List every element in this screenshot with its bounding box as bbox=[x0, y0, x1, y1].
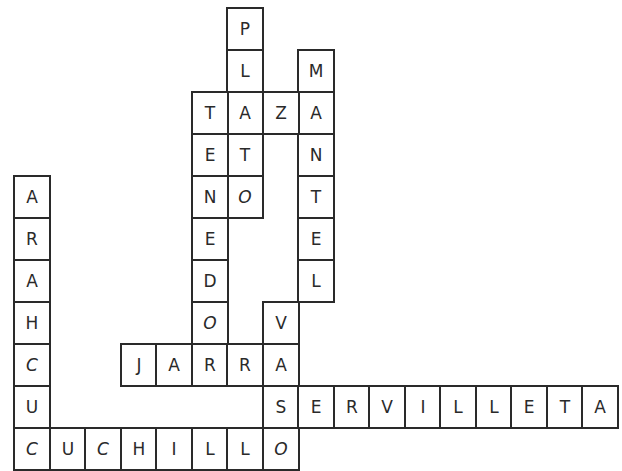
cell-letter: U bbox=[62, 439, 74, 459]
crossword-cell[interactable]: E bbox=[510, 385, 548, 429]
crossword-cell[interactable]: A bbox=[13, 175, 51, 219]
crossword-cell[interactable]: V bbox=[262, 301, 300, 345]
crossword-cell[interactable]: R bbox=[226, 343, 264, 387]
cell-letter: H bbox=[133, 439, 146, 459]
cell-letter: N bbox=[204, 187, 217, 207]
crossword-cell[interactable]: A bbox=[155, 343, 193, 387]
crossword-cell[interactable]: P bbox=[226, 7, 264, 51]
crossword-cell[interactable]: R bbox=[13, 217, 51, 261]
cell-letter: O bbox=[274, 439, 287, 459]
cell-letter: E bbox=[205, 229, 216, 249]
crossword-cell[interactable]: H bbox=[120, 427, 158, 471]
cell-letter: J bbox=[136, 355, 141, 375]
cell-letter: L bbox=[240, 61, 249, 81]
cell-letter: A bbox=[275, 355, 287, 375]
cell-letter: T bbox=[240, 145, 250, 165]
cell-letter: E bbox=[524, 397, 535, 417]
crossword-cell[interactable]: L bbox=[439, 385, 477, 429]
crossword-cell[interactable]: T bbox=[191, 91, 229, 135]
crossword-cell[interactable]: L bbox=[191, 427, 229, 471]
cell-letter: E bbox=[311, 397, 322, 417]
crossword-cell[interactable]: C bbox=[13, 427, 51, 471]
cell-letter: T bbox=[311, 187, 321, 207]
crossword-cell[interactable]: O bbox=[226, 175, 264, 219]
crossword-cell[interactable]: U bbox=[13, 385, 51, 429]
cell-letter: O bbox=[238, 187, 251, 207]
cell-letter: I bbox=[171, 439, 176, 459]
cell-letter: E bbox=[205, 145, 216, 165]
cell-letter: A bbox=[239, 103, 251, 123]
crossword-cell[interactable]: L bbox=[226, 49, 264, 93]
crossword-cell[interactable]: L bbox=[475, 385, 513, 429]
cell-letter: L bbox=[240, 439, 249, 459]
cell-letter: T bbox=[560, 397, 570, 417]
cell-letter: R bbox=[346, 397, 358, 417]
cell-letter: Z bbox=[275, 103, 287, 123]
cell-letter: V bbox=[275, 313, 287, 333]
cell-letter: I bbox=[420, 397, 425, 417]
cell-letter: D bbox=[203, 271, 216, 291]
cell-letter: C bbox=[26, 439, 38, 459]
crossword-cell[interactable]: T bbox=[546, 385, 584, 429]
crossword-cell[interactable]: U bbox=[49, 427, 87, 471]
crossword-cell[interactable]: R bbox=[191, 343, 229, 387]
cell-letter: A bbox=[26, 271, 38, 291]
crossword-cell[interactable]: L bbox=[226, 427, 264, 471]
crossword-cell[interactable]: A bbox=[226, 91, 264, 135]
crossword-cell[interactable]: T bbox=[226, 133, 264, 177]
crossword-cell[interactable]: S bbox=[262, 385, 300, 429]
crossword-cell[interactable]: Z bbox=[262, 91, 300, 135]
cell-letter: H bbox=[26, 313, 39, 333]
crossword-cell[interactable]: E bbox=[297, 385, 335, 429]
crossword-cell[interactable]: L bbox=[297, 259, 335, 303]
crossword-cell[interactable]: I bbox=[404, 385, 442, 429]
cell-letter: L bbox=[311, 271, 320, 291]
cell-letter: T bbox=[205, 103, 215, 123]
crossword-cell[interactable]: A bbox=[13, 259, 51, 303]
crossword-cell[interactable]: N bbox=[191, 175, 229, 219]
crossword-cell[interactable]: D bbox=[191, 259, 229, 303]
cell-letter: N bbox=[310, 145, 323, 165]
crossword-cell[interactable]: C bbox=[84, 427, 122, 471]
crossword-cell[interactable]: C bbox=[13, 343, 51, 387]
cell-letter: C bbox=[97, 439, 109, 459]
cell-letter: L bbox=[205, 439, 214, 459]
cell-letter: U bbox=[26, 397, 38, 417]
cell-letter: R bbox=[239, 355, 251, 375]
cell-letter: A bbox=[310, 103, 322, 123]
crossword-cell[interactable]: R bbox=[333, 385, 371, 429]
crossword-cell[interactable]: A bbox=[297, 91, 335, 135]
crossword-cell[interactable]: O bbox=[262, 427, 300, 471]
crossword-cell[interactable]: A bbox=[581, 385, 619, 429]
crossword-cell[interactable]: E bbox=[191, 217, 229, 261]
cell-letter: S bbox=[276, 397, 287, 417]
cell-letter: A bbox=[26, 187, 38, 207]
crossword-cell[interactable]: V bbox=[368, 385, 406, 429]
cell-letter: P bbox=[240, 19, 250, 39]
cell-letter: A bbox=[594, 397, 606, 417]
crossword-cell[interactable]: O bbox=[191, 301, 229, 345]
crossword-grid: PLATOMANTELTZENEDORARAHCUCVASOJARERVILLE… bbox=[0, 0, 622, 471]
cell-letter: V bbox=[381, 397, 393, 417]
crossword-cell[interactable]: I bbox=[155, 427, 193, 471]
crossword-cell[interactable]: T bbox=[297, 175, 335, 219]
crossword-cell[interactable]: H bbox=[13, 301, 51, 345]
cell-letter: R bbox=[204, 355, 216, 375]
cell-letter: O bbox=[203, 313, 216, 333]
cell-letter: R bbox=[26, 229, 38, 249]
crossword-cell[interactable]: N bbox=[297, 133, 335, 177]
cell-letter: M bbox=[309, 61, 324, 81]
cell-letter: L bbox=[453, 397, 462, 417]
cell-letter: A bbox=[168, 355, 180, 375]
cell-letter: L bbox=[489, 397, 498, 417]
crossword-cell[interactable]: E bbox=[191, 133, 229, 177]
crossword-cell[interactable]: A bbox=[262, 343, 300, 387]
crossword-cell[interactable]: M bbox=[297, 49, 335, 93]
crossword-cell[interactable]: J bbox=[120, 343, 158, 387]
cell-letter: E bbox=[311, 229, 322, 249]
crossword-cell[interactable]: E bbox=[297, 217, 335, 261]
cell-letter: C bbox=[26, 355, 38, 375]
